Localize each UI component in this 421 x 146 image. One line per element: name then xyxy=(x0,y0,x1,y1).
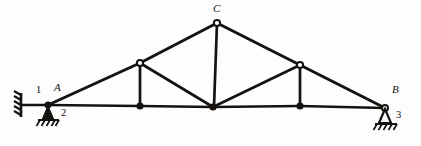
truss-figure xyxy=(0,0,421,146)
joint-ur xyxy=(297,62,303,68)
member-a-ul xyxy=(48,63,140,105)
support-label-3: 3 xyxy=(396,110,401,121)
support-1-wall-hatch xyxy=(14,91,21,117)
support-2-triangle xyxy=(43,106,54,119)
truss-members xyxy=(48,23,385,108)
support-label-1: 1 xyxy=(36,85,41,96)
member-ul-c xyxy=(140,23,217,63)
member-ul-m xyxy=(140,63,213,107)
joint-c xyxy=(214,20,220,26)
support-3-pin xyxy=(374,109,398,130)
joint-ul xyxy=(137,60,143,66)
joint-m xyxy=(210,104,216,110)
support-3-triangle xyxy=(379,109,391,123)
member-group-diagonals xyxy=(140,63,300,107)
member-a-l1 xyxy=(48,105,140,106)
member-l1-m xyxy=(140,106,213,107)
truss-diagram-canvas: A B C 1 2 3 xyxy=(0,0,421,146)
member-ur-m xyxy=(213,65,300,107)
member-group-verticals xyxy=(140,23,300,107)
member-r1-b xyxy=(300,106,385,108)
member-c-ur xyxy=(217,23,300,65)
support-label-2: 2 xyxy=(61,108,66,119)
member-m-r1 xyxy=(213,106,300,107)
joint-l1 xyxy=(137,103,143,109)
support-2-pin xyxy=(37,106,60,126)
node-label-c: C xyxy=(213,3,220,14)
joint-r1 xyxy=(297,103,303,109)
member-c-m xyxy=(214,23,217,107)
member-ur-b xyxy=(300,65,385,108)
node-label-a: A xyxy=(54,82,61,93)
node-label-b: B xyxy=(392,84,399,95)
